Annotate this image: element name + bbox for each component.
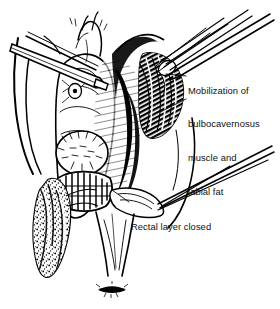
mobilization-label-line-2: bulbocavernosus bbox=[188, 118, 260, 129]
mobilization-label-line-1: Mobilization of bbox=[188, 85, 260, 96]
mobilization-label: Mobilization of bulbocavernosus muscle a… bbox=[188, 62, 260, 220]
mobilization-label-line-4: labial fat bbox=[188, 186, 260, 197]
rectal-layer-label: Rectal layer closed bbox=[131, 198, 211, 254]
mobilization-label-line-3: muscle and bbox=[188, 152, 260, 163]
rectal-layer-label-line-1: Rectal layer closed bbox=[131, 221, 211, 232]
surgical-illustration-figure: Mobilization of bulbocavernosus muscle a… bbox=[0, 0, 280, 309]
sutured-tissue-mass bbox=[56, 131, 108, 175]
